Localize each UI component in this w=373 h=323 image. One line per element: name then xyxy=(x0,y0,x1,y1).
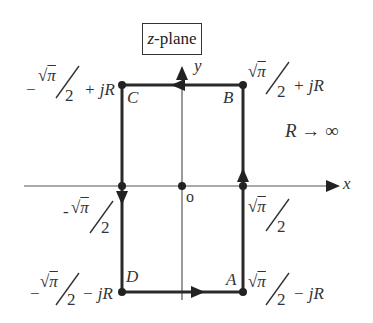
point-left-axis xyxy=(118,182,126,190)
point-A xyxy=(239,288,247,296)
arrow-bottom-right-icon xyxy=(191,286,205,298)
arrow-top-left-icon xyxy=(171,79,185,91)
label-C: C xyxy=(127,88,138,108)
label-D: D xyxy=(126,267,138,287)
x-axis-label: x xyxy=(343,174,351,194)
plane-title: z-plane xyxy=(142,23,202,55)
limit-condition: R → ∞ xyxy=(285,120,339,142)
point-origin xyxy=(178,182,186,190)
title-rest: -plane xyxy=(154,29,196,49)
label-B: B xyxy=(223,88,233,108)
point-right-axis xyxy=(239,182,247,190)
x-axis-arrow-icon xyxy=(326,180,340,192)
arrow-left-down-icon xyxy=(116,191,128,205)
arrow-right-up-icon xyxy=(237,168,249,182)
point-D xyxy=(118,288,126,296)
point-C xyxy=(118,81,126,89)
y-axis-label: y xyxy=(194,56,202,76)
point-B xyxy=(239,81,247,89)
origin-label: o xyxy=(186,188,194,206)
label-A: A xyxy=(226,270,236,290)
y-axis-arrow-icon xyxy=(176,66,188,80)
title-z: z xyxy=(147,29,154,49)
